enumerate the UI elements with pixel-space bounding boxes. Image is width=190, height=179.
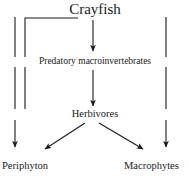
edge-herbivores-to-macrophytes: [99, 123, 143, 149]
node-crayfish-label: Crayfish: [65, 1, 125, 17]
node-herbivores-label: Herbivores: [69, 108, 122, 119]
node-macrophytes: Macrophytes: [124, 161, 190, 172]
node-predatory-macroinvertebrates: Predatory macroinvertebrates: [0, 57, 190, 67]
node-periphyton-label: Periphyton: [2, 160, 48, 171]
node-crayfish: Crayfish: [0, 2, 190, 17]
edge-crayfish-to-macrophytes: [118, 13, 166, 147]
edge-layer: [0, 0, 190, 179]
node-predatory-macroinvertebrates-label: Predatory macroinvertebrates: [36, 56, 154, 66]
node-macrophytes-label: Macrophytes: [124, 160, 179, 171]
food-web-diagram: Crayfish Predatory macroinvertebrates He…: [0, 0, 190, 179]
node-periphyton: Periphyton: [2, 161, 74, 172]
node-herbivores: Herbivores: [0, 109, 190, 120]
edge-herbivores-to-periphyton: [45, 123, 85, 149]
